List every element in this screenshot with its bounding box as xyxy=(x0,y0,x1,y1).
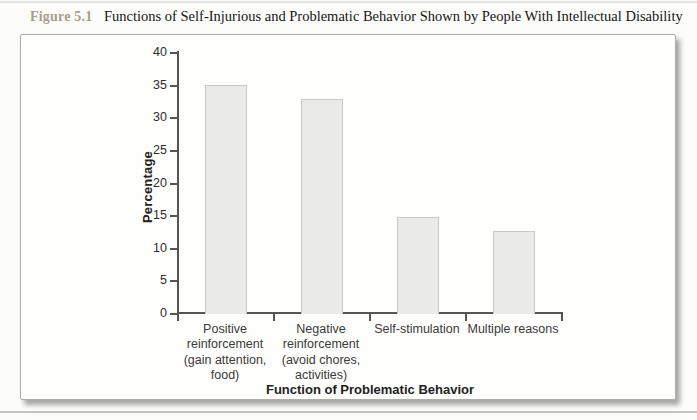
x-axis-tick xyxy=(369,314,371,321)
y-axis-tick-label: 20 xyxy=(135,176,167,190)
figure-header: Figure 5.1 Functions of Self-Injurious a… xyxy=(0,6,697,32)
x-axis-tick xyxy=(177,314,179,321)
x-category-label: Self-stimulation xyxy=(364,322,470,337)
y-axis-tick-label: 0 xyxy=(135,306,167,320)
x-category-label: Multiple reasons xyxy=(460,322,566,337)
x-category-label: Positive reinforcement (gain attention, … xyxy=(172,322,278,383)
y-axis-tick xyxy=(170,150,177,152)
y-axis-tick-label: 35 xyxy=(135,78,167,92)
chart-frame: Percentage Function of Problematic Behav… xyxy=(20,34,676,400)
y-axis-tick-label: 25 xyxy=(135,143,167,157)
y-axis-tick-label: 15 xyxy=(135,208,167,222)
y-axis-tick xyxy=(170,52,177,54)
page-top-rule xyxy=(0,1,697,3)
bar-1 xyxy=(205,85,247,314)
y-axis-tick xyxy=(170,248,177,250)
figure-title: Functions of Self-Injurious and Problema… xyxy=(104,8,684,25)
page-bottom-rule xyxy=(0,411,697,413)
x-axis-tick xyxy=(273,314,275,321)
y-axis-tick xyxy=(170,280,177,282)
figure-number-label: Figure 5.1 xyxy=(30,9,92,25)
y-axis-tick xyxy=(170,215,177,217)
y-axis-tick xyxy=(170,117,177,119)
y-axis-line xyxy=(177,51,179,314)
x-axis-title: Function of Problematic Behavior xyxy=(177,382,563,397)
bar-4 xyxy=(493,231,535,314)
x-category-label: Negative reinforcement (avoid chores, ac… xyxy=(268,322,374,383)
y-axis-tick xyxy=(170,183,177,185)
y-axis-tick-label: 40 xyxy=(135,45,167,59)
bar-3 xyxy=(397,217,439,314)
y-axis-tick xyxy=(170,313,177,315)
y-axis-tick-label: 30 xyxy=(135,110,167,124)
y-axis-tick-label: 5 xyxy=(135,273,167,287)
x-axis-tick xyxy=(465,314,467,321)
bar-2 xyxy=(301,99,343,314)
y-axis-tick-label: 10 xyxy=(135,241,167,255)
bar-chart: Percentage Function of Problematic Behav… xyxy=(21,35,675,399)
x-axis-tick xyxy=(561,314,563,321)
y-axis-tick xyxy=(170,85,177,87)
